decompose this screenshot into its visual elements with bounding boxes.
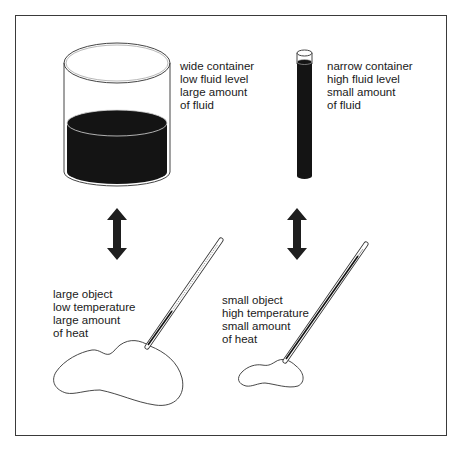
caption-line: low fluid level <box>180 73 254 86</box>
narrow-container-caption: narrow container high fluid level small … <box>327 60 413 112</box>
caption-line: wide container <box>180 60 254 73</box>
wide-container-icon <box>64 43 170 186</box>
caption-line: of heat <box>222 333 309 346</box>
double-arrow-right-icon <box>287 208 307 260</box>
large-object-caption: large object low temperature large amoun… <box>53 288 135 340</box>
small-object-blob-icon <box>239 359 304 386</box>
caption-line: large object <box>53 288 135 301</box>
double-arrow-left-icon <box>107 208 127 260</box>
caption-line: low temperature <box>53 301 135 314</box>
wide-container-caption: wide container low fluid level large amo… <box>180 60 254 112</box>
caption-line: of fluid <box>180 99 254 112</box>
caption-line: small amount <box>222 320 309 333</box>
caption-line: large amount <box>180 86 254 99</box>
caption-line: high temperature <box>222 307 309 320</box>
large-object-blob-icon <box>54 341 183 406</box>
caption-line: small amount <box>327 86 413 99</box>
caption-line: narrow container <box>327 60 413 73</box>
caption-line: of fluid <box>327 99 413 112</box>
caption-line: large amount <box>53 314 135 327</box>
caption-line: small object <box>222 294 309 307</box>
small-object-caption: small object high temperature small amou… <box>222 294 309 346</box>
thermometer-left-icon <box>147 240 221 347</box>
narrow-container-icon <box>297 50 312 179</box>
caption-line: high fluid level <box>327 73 413 86</box>
caption-line: of heat <box>53 327 135 340</box>
